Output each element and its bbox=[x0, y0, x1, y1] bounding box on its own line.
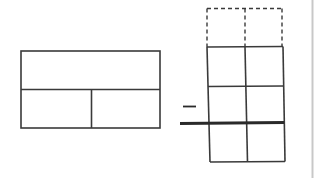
grid-right-border bbox=[283, 47, 285, 162]
grid-dashed-row bbox=[207, 9, 282, 48]
grid-row-line-1 bbox=[207, 47, 283, 48]
grid-solid bbox=[207, 47, 285, 163]
grid-middle-border bbox=[245, 47, 248, 162]
grid-left-border bbox=[207, 47, 210, 162]
subtraction-line bbox=[180, 123, 284, 124]
diagram-canvas bbox=[0, 0, 314, 178]
bar-model bbox=[21, 51, 160, 128]
